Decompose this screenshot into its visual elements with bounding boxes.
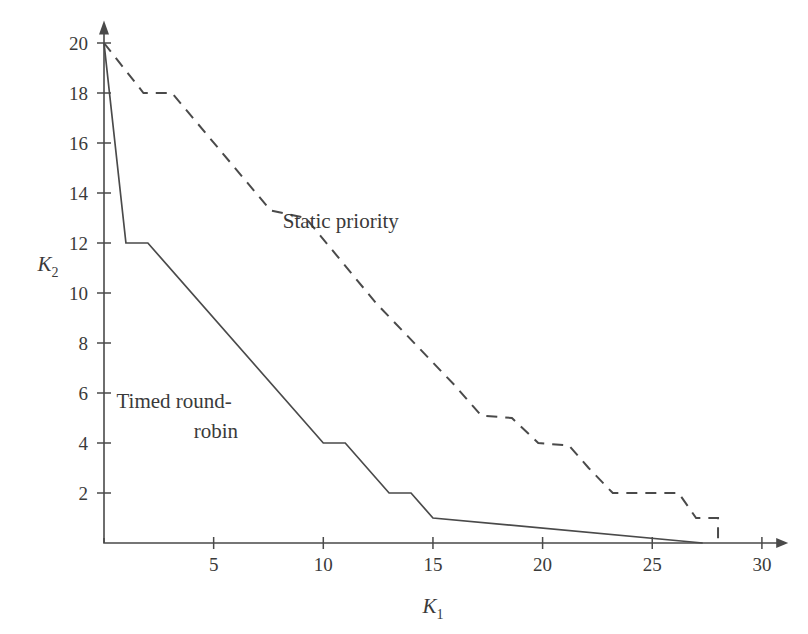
x-axis-title: K1 [421,594,443,622]
x-tick-label: 20 [533,554,552,575]
y-tick-label: 14 [69,183,89,204]
y-axis-title-base: K [36,252,52,276]
chart-container: 51015202530 2468101214161820 Static prio… [0,0,808,634]
y-tick-label: 12 [69,233,88,254]
x-axis-title-base: K [421,594,437,618]
x-tick-label: 15 [423,554,442,575]
x-tick-label: 25 [643,554,662,575]
series-line-static-priority [104,43,718,543]
data-series-group [104,43,718,543]
x-axis-arrowhead [776,538,788,548]
y-axis-title-subscript: 2 [52,265,59,280]
y-tick-label: 10 [69,283,88,304]
y-tick-label: 2 [79,483,89,504]
chart-canvas: 51015202530 2468101214161820 Static prio… [0,0,808,634]
axis-titles: K1 K2 [36,252,443,623]
series-annotation-label: robin [194,419,239,443]
y-axis-title: K2 [36,252,58,280]
y-tick-label: 18 [69,83,88,104]
x-axis-title-subscript: 1 [436,607,443,622]
x-tick-label: 30 [752,554,771,575]
series-line-timed-round-robin [104,43,703,543]
axes-group [99,21,788,549]
y-tick-label: 16 [69,133,88,154]
y-tick-label: 6 [79,383,89,404]
series-annotations: Static priorityTimed round-robin [117,209,400,443]
y-axis-arrowhead [99,21,109,35]
y-tick-label: 8 [79,333,89,354]
series-annotation-label: Static priority [283,209,400,233]
series-annotation-label: Timed round- [117,389,232,413]
x-tick-label: 10 [314,554,333,575]
y-tick-label: 4 [79,433,89,454]
x-tick-label: 5 [209,554,219,575]
y-tick-label: 20 [69,33,88,54]
